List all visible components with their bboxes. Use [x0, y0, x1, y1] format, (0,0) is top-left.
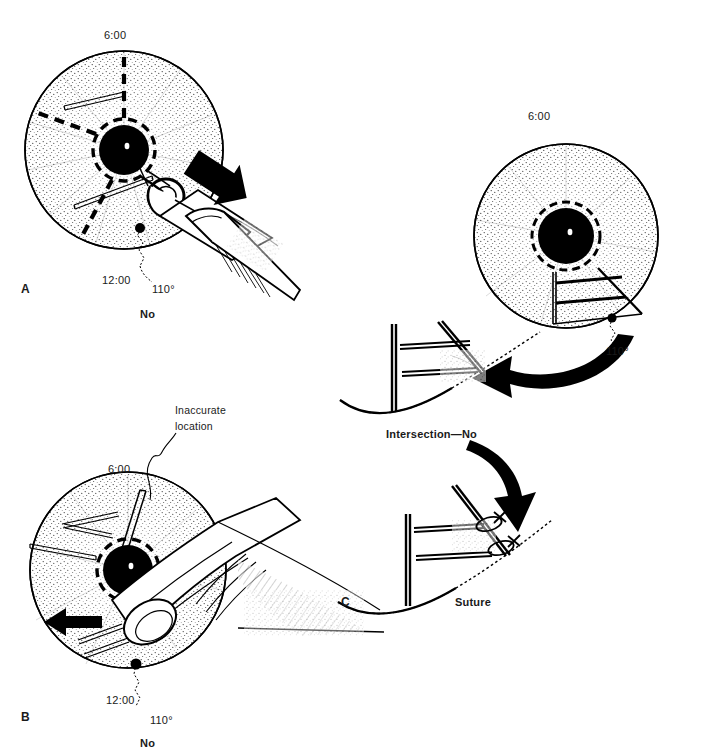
panel-a-arrow-icon	[178, 142, 259, 218]
panel-a-artwork	[25, 51, 300, 300]
panel-c-step-one	[340, 321, 540, 413]
panel-b-angle-label: 110°	[150, 714, 173, 727]
panel-c-step-two-label: Suture	[455, 596, 491, 609]
panel-a-blade	[74, 164, 153, 209]
panel-b-instrument	[112, 498, 384, 654]
panel-c-suture-stitch-icon	[475, 511, 520, 558]
panel-c-letter: C	[341, 596, 350, 610]
panel-a-letter: A	[21, 283, 30, 297]
panel-b-top-clock-label: 6:00	[108, 463, 130, 476]
panel-b-letter: B	[21, 711, 30, 725]
panel-a-suture-knot-icon	[135, 223, 152, 282]
panel-c-curved-arrow-icon-2	[466, 440, 536, 532]
panel-c-artwork	[338, 144, 658, 614]
panel-a-angle-label: 110°	[152, 283, 175, 296]
panel-c-angle-label: 110°	[606, 345, 629, 358]
panel-b-verdict-label: No	[140, 737, 155, 750]
figure-artwork	[0, 0, 706, 753]
panel-c-step-two	[338, 485, 552, 614]
panel-a-top-clock-label: 6:00	[104, 29, 126, 42]
panel-b-artwork	[30, 433, 384, 706]
panel-c-top-clock-label: 6:00	[528, 110, 550, 123]
panel-a-verdict-label: No	[140, 308, 155, 321]
panel-b-callout-line-1: Inaccurate	[175, 404, 226, 416]
panel-a-bottom-clock-label: 12:00	[102, 274, 131, 287]
surgical-figure: 6:00 12:00 110° No A Inaccurate location…	[0, 0, 706, 753]
panel-b-bottom-clock-label: 12:00	[106, 694, 135, 707]
panel-b-blade	[114, 490, 146, 575]
panel-b-callout-line-2: location	[175, 420, 213, 432]
panel-c-suture-knot-icon	[607, 313, 616, 347]
panel-c-step-one-label: Intersection—No	[386, 428, 477, 441]
panel-b-arrow-icon	[44, 608, 102, 636]
panel-a-instrument	[140, 170, 300, 300]
panel-c-curved-arrow-icon-1	[472, 334, 634, 398]
